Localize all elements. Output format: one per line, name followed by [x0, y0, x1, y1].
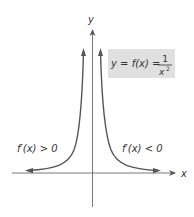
arrow-right-top-icon [98, 48, 103, 56]
arrow-left-top-icon [81, 48, 86, 56]
formula-lhs: y = f(x) = [110, 58, 160, 69]
annotation-left-derivative: f′(x) > 0 [17, 143, 58, 154]
y-axis-label: y [87, 14, 95, 25]
formula-exponent: 2 [166, 65, 170, 72]
formula-denominator: x [158, 67, 165, 77]
formula-numerator: 1 [162, 54, 168, 64]
annotation-right-derivative: f′(x) < 0 [122, 143, 163, 154]
arrow-left-bottom-icon [25, 168, 33, 173]
graph-reciprocal-square: x y y = f(x) = 1 x 2 f′(x) > 0 f′(x) < 0 [0, 0, 194, 217]
arrow-right-bottom-icon [153, 168, 161, 173]
x-axis-label: x [180, 168, 187, 179]
